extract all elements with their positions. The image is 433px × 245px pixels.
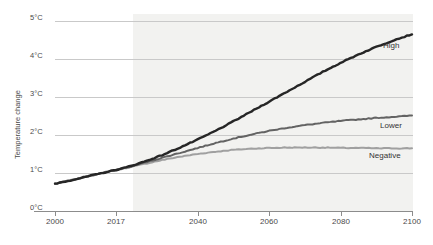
line-negative — [55, 147, 412, 183]
series-label-lower: Lower — [380, 121, 402, 130]
series-label-negative: Negative — [369, 151, 401, 160]
chart-container: 5°C 4°C 3°C 2°C 1°C 0°C Temperature chan… — [0, 0, 433, 245]
series-lines — [0, 0, 433, 245]
line-high — [55, 34, 412, 183]
series-label-high: High — [383, 41, 399, 50]
